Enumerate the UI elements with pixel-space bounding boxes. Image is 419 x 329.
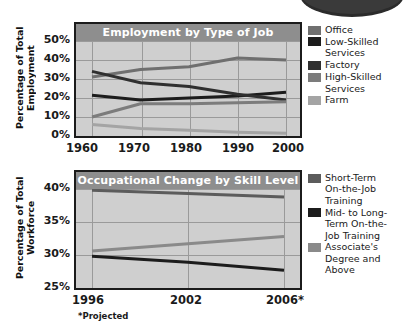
x-tick-label: 2006* <box>266 294 304 306</box>
legend-label: High-Skilled Services <box>325 71 416 94</box>
legend-swatch-icon <box>308 174 321 183</box>
legend-swatch-icon <box>308 96 321 105</box>
chart-legend: OfficeLow-Skilled ServicesFactoryHigh-Sk… <box>308 24 416 106</box>
legend-label: Short-Term On-the-Job Training <box>325 172 416 206</box>
legend-swatch-icon <box>308 26 321 35</box>
legend-label: Mid- to Long- Term On-the- Job Training <box>325 207 416 241</box>
chart-employment-by-type-of-job: Percentage of Total Employment 50%40%30%… <box>0 16 419 164</box>
legend-item: Farm <box>308 94 416 105</box>
y-axis-title: Percentage of Total Workforce <box>14 172 38 284</box>
legend-label: Low-Skilled Services <box>325 36 416 59</box>
plot-area: Employment by Type of Job <box>74 22 302 138</box>
series-lines <box>76 172 300 288</box>
legend-item: Factory <box>308 59 416 70</box>
legend-swatch-icon <box>308 243 321 252</box>
x-tick-label: 1996 <box>72 294 104 306</box>
x-tick-label: 1970 <box>118 142 150 154</box>
y-tick-label: 40% <box>44 182 70 193</box>
legend-label: Office <box>325 24 416 35</box>
legend-label: Farm <box>325 94 416 105</box>
x-tick-label: 2000 <box>272 142 304 154</box>
y-tick-label: 0% <box>51 129 70 140</box>
y-tick-label: 50% <box>44 34 70 45</box>
legend-item: Office <box>308 24 416 35</box>
legend-item: High-Skilled Services <box>308 71 416 94</box>
series-line <box>92 256 284 270</box>
chart-occupational-change-by-skill-level: Percentage of Total Workforce 40%35%30%2… <box>0 166 419 329</box>
y-tick-label: 25% <box>44 281 70 292</box>
legend-item: Short-Term On-the-Job Training <box>308 172 416 206</box>
y-tick-label: 30% <box>44 72 70 83</box>
chart-title: Employment by Type of Job <box>76 24 300 41</box>
series-line <box>92 125 286 134</box>
y-axis-title: Percentage of Total Employment <box>14 24 38 132</box>
series-line <box>92 190 284 197</box>
x-tick-label: 1990 <box>222 142 254 154</box>
chart-title: Occupational Change by Skill Level <box>76 172 300 189</box>
legend-item: Low-Skilled Services <box>308 36 416 59</box>
x-tick-label: 1980 <box>170 142 202 154</box>
y-tick-label: 40% <box>44 53 70 64</box>
plot-inner <box>76 172 300 288</box>
legend-swatch-icon <box>308 73 321 82</box>
x-tick-label: 2002 <box>170 294 202 306</box>
chart-footnote: *Projected <box>78 311 128 321</box>
legend-item: Associate's Degree and Above <box>308 241 416 275</box>
series-line <box>92 71 286 100</box>
x-tick-label: 1960 <box>66 142 98 154</box>
legend-label: Associate's Degree and Above <box>325 241 416 275</box>
y-tick-label: 10% <box>44 110 70 121</box>
y-tick-label: 20% <box>44 91 70 102</box>
legend-swatch-icon <box>308 37 321 46</box>
decorative-oval-shape <box>300 0 404 14</box>
chart-legend: Short-Term On-the-Job TrainingMid- to Lo… <box>308 172 416 276</box>
series-line <box>92 102 286 117</box>
legend-swatch-icon <box>308 61 321 70</box>
y-tick-label: 35% <box>44 215 70 226</box>
plot-area: Occupational Change by Skill Level <box>74 170 302 290</box>
legend-label: Factory <box>325 59 416 70</box>
legend-swatch-icon <box>308 208 321 217</box>
legend-item: Mid- to Long- Term On-the- Job Training <box>308 207 416 241</box>
series-line <box>92 237 284 252</box>
y-tick-label: 30% <box>44 248 70 259</box>
series-line <box>92 58 286 77</box>
